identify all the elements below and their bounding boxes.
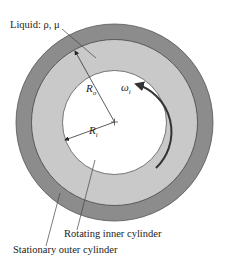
outer-cylinder-leader bbox=[46, 193, 60, 246]
cylinder-diagram: Liquid: ρ, μ Ro Ri ωi Rotating inner cyl… bbox=[0, 0, 226, 264]
liquid-label: Liquid: ρ, μ bbox=[10, 19, 60, 30]
inner-cylinder-label: Rotating inner cylinder bbox=[64, 228, 162, 239]
outer-cylinder-label: Stationary outer cylinder bbox=[13, 244, 118, 255]
